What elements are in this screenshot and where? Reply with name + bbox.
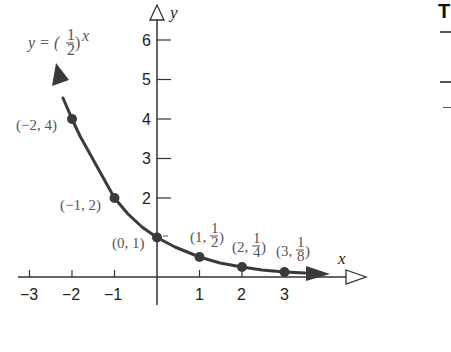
x-tick-label: −3: [20, 286, 38, 303]
y-axis: y 2 3 4 5 6: [142, 3, 178, 305]
svg-text:): ): [75, 34, 80, 52]
svg-text:(3,: (3,: [276, 243, 292, 260]
y-axis-label: y: [168, 3, 178, 22]
x-tick-label: −2: [62, 286, 80, 303]
svg-text:8: 8: [297, 248, 305, 264]
data-point: [195, 252, 205, 262]
curve-arrow-left-icon: [52, 63, 69, 86]
x-tick-label: 2: [237, 286, 246, 303]
point-label: (1, 1 2 ): [190, 220, 224, 250]
point-label: (−1, 2): [60, 197, 101, 214]
data-point: [152, 233, 162, 243]
y-axis-arrow-icon: [150, 5, 164, 20]
y-tick-label: 2: [142, 190, 151, 207]
svg-text:): ): [219, 229, 224, 246]
exponential-graph: x −3 −2 −1 1 2 3 y 2 3 4 5 6: [0, 0, 451, 352]
divider: [443, 107, 451, 108]
data-point: [237, 262, 247, 272]
data-point: [67, 114, 77, 124]
svg-text:2: 2: [211, 234, 219, 250]
y-tick-label: 5: [142, 71, 151, 88]
curve-arrow-right-icon: [306, 266, 330, 281]
x-axis-label: x: [337, 249, 346, 268]
point-label: (−2, 4): [16, 117, 57, 134]
equation-label: y = ( 1 2 ) x: [26, 26, 89, 58]
svg-text:y = (: y = (: [26, 34, 61, 52]
x-tick-label: 1: [195, 286, 204, 303]
point-label: (3, 1 8 ): [276, 234, 310, 264]
x-axis-arrow-icon: [346, 270, 366, 284]
y-tick-label: 4: [142, 111, 151, 128]
divider: [440, 81, 451, 83]
svg-text:): ): [261, 239, 266, 256]
point-label: (2, 1 4 ): [232, 230, 266, 260]
side-panel-title-fragment: T: [438, 0, 450, 23]
y-tick-label: 6: [142, 32, 151, 49]
svg-text:x: x: [81, 27, 89, 44]
svg-text:(2,: (2,: [232, 239, 248, 256]
x-tick-label: −1: [104, 286, 122, 303]
svg-text:): ): [305, 243, 310, 260]
svg-text:(1,: (1,: [190, 229, 206, 246]
y-tick-label: 3: [142, 150, 151, 167]
data-point: [110, 193, 120, 203]
svg-text:2: 2: [67, 41, 75, 58]
point-label: (0, 1): [112, 235, 145, 252]
divider: [440, 31, 451, 33]
x-tick-label: 3: [280, 286, 289, 303]
svg-text:4: 4: [253, 244, 261, 260]
data-point: [280, 267, 290, 277]
